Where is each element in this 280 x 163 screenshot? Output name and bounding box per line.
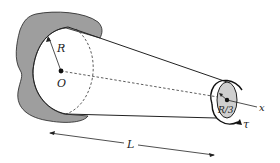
label-torque: τ bbox=[243, 118, 250, 131]
length-dimension-right bbox=[138, 145, 214, 155]
taper-bottom-edge bbox=[66, 114, 216, 118]
taper-top-edge bbox=[68, 27, 230, 83]
label-radius-small: R/3 bbox=[217, 105, 234, 115]
label-length: L bbox=[126, 138, 134, 151]
fixed-wall bbox=[16, 12, 102, 122]
origin-dot bbox=[59, 69, 64, 74]
center-axis-dashed bbox=[61, 71, 224, 98]
tapered-shaft-diagram: R O R/3 x τ L bbox=[0, 0, 280, 163]
large-end-hidden-edge bbox=[66, 29, 93, 114]
label-axis-x: x bbox=[259, 102, 265, 113]
length-arrow-right-icon bbox=[209, 153, 215, 157]
label-origin: O bbox=[57, 77, 66, 90]
label-radius-large: R bbox=[56, 42, 65, 55]
length-arrow-left-icon bbox=[49, 131, 55, 135]
length-dimension-left bbox=[50, 133, 124, 143]
torque-arc-left bbox=[211, 86, 214, 104]
small-end-center-dot bbox=[225, 98, 229, 102]
